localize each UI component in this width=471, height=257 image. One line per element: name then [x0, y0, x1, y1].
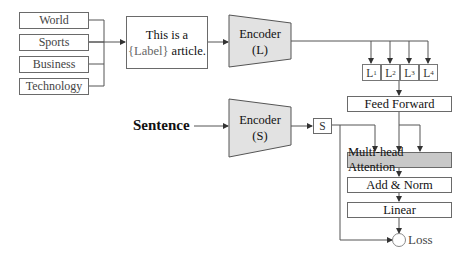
template-suffix: article. — [168, 44, 205, 58]
label-embedding-1: L1 — [362, 64, 381, 81]
loss-label: Loss — [408, 232, 433, 248]
label-technology: Technology — [19, 78, 89, 95]
encoder-label-sub: (L) — [229, 42, 291, 58]
linear-layer: Linear — [347, 202, 452, 218]
multi-head-attention-layer: Multi-head Attention — [347, 152, 452, 168]
label-sports: Sports — [19, 34, 89, 51]
loss-node — [393, 234, 406, 247]
feed-forward-layer: Feed Forward — [347, 96, 452, 112]
encoder-label: Encoder (L) — [229, 26, 291, 58]
label-embedding-2: L2 — [381, 64, 400, 81]
add-norm-layer: Add & Norm — [347, 177, 452, 193]
encoder-sentence: Encoder (S) — [229, 112, 291, 144]
label-business: Business — [19, 56, 89, 73]
template-placeholder: {Label} — [128, 44, 168, 58]
template-line2: {Label} article. — [128, 43, 206, 59]
sentence-input-label: Sentence — [133, 117, 190, 134]
label-embedding-3: L3 — [400, 64, 419, 81]
encoder-sentence-title: Encoder — [229, 112, 291, 128]
template-line1: This is a — [146, 27, 188, 43]
label-world: World — [19, 12, 89, 29]
label-embedding-4: L4 — [419, 64, 438, 81]
sentence-embedding: S — [313, 118, 332, 134]
encoder-label-title: Encoder — [229, 26, 291, 42]
encoder-sentence-sub: (S) — [229, 128, 291, 144]
template-box: This is a {Label} article. — [126, 16, 208, 69]
